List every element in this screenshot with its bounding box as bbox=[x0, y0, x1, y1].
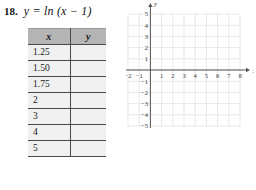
cell-x: 1.25 bbox=[28, 45, 70, 61]
y-tick-label: −4 bbox=[141, 111, 149, 118]
coordinate-graph: −2−112345678 54321−1−2−3−4−5 x y bbox=[126, 2, 254, 142]
x-tick-label: 4 bbox=[194, 72, 198, 79]
table-row: 4 bbox=[28, 125, 106, 141]
y-tick-label: −3 bbox=[141, 100, 148, 107]
table-row: 1.25 bbox=[28, 45, 106, 61]
cell-y[interactable] bbox=[70, 93, 106, 109]
x-tick-label: 3 bbox=[182, 72, 185, 79]
y-axis-label: y bbox=[153, 2, 158, 8]
y-tick-label: −2 bbox=[141, 89, 148, 96]
table-row: 2 bbox=[28, 93, 106, 109]
x-tick-label: 8 bbox=[238, 72, 241, 79]
table-row: 1.50 bbox=[28, 61, 106, 77]
cell-y[interactable] bbox=[70, 109, 106, 125]
cell-y[interactable] bbox=[70, 141, 106, 157]
x-tick-label: 5 bbox=[205, 72, 208, 79]
y-axis-arrow bbox=[148, 3, 152, 7]
problem-equation: y = ln (x − 1) bbox=[24, 4, 92, 19]
cell-y[interactable] bbox=[70, 61, 106, 77]
cell-x: 4 bbox=[28, 125, 70, 141]
value-table: x y 1.25 1.50 1.75 2 3 bbox=[28, 28, 106, 157]
column-header-y: y bbox=[70, 29, 106, 45]
exercise-page: 18. y = ln (x − 1) x y 1.25 1.50 1.75 bbox=[0, 0, 256, 190]
table-row: 3 bbox=[28, 109, 106, 125]
graph-svg: −2−112345678 54321−1−2−3−4−5 x y bbox=[126, 2, 254, 142]
x-tick-label: −2 bbox=[126, 72, 131, 79]
y-tick-label: 1 bbox=[145, 55, 148, 62]
problem-header: 18. y = ln (x − 1) bbox=[4, 4, 92, 19]
y-tick-label: −1 bbox=[141, 78, 148, 85]
table-header-row: x y bbox=[28, 29, 106, 45]
x-axis-label: x bbox=[252, 67, 254, 75]
y-tick-label: 3 bbox=[145, 33, 148, 40]
x-axis-arrow bbox=[246, 68, 250, 72]
column-header-x: x bbox=[28, 29, 70, 45]
problem-number: 18. bbox=[4, 5, 18, 17]
cell-y[interactable] bbox=[70, 77, 106, 93]
y-tick-label: −5 bbox=[141, 122, 148, 129]
table-row: 5 bbox=[28, 141, 106, 157]
x-tick-label: 2 bbox=[171, 72, 174, 79]
cell-x: 1.50 bbox=[28, 61, 70, 77]
cell-x: 3 bbox=[28, 109, 70, 125]
cell-y[interactable] bbox=[70, 45, 106, 61]
cell-x: 5 bbox=[28, 141, 70, 157]
y-tick-label: 5 bbox=[145, 10, 148, 17]
y-tick-label: 2 bbox=[145, 44, 148, 51]
table-header: x y bbox=[28, 29, 106, 45]
cell-y[interactable] bbox=[70, 125, 106, 141]
x-tick-label: 1 bbox=[160, 72, 163, 79]
table-row: 1.75 bbox=[28, 77, 106, 93]
x-tick-label: 7 bbox=[227, 72, 231, 79]
cell-x: 2 bbox=[28, 93, 70, 109]
cell-x: 1.75 bbox=[28, 77, 70, 93]
x-tick-label: 6 bbox=[216, 72, 220, 79]
table-body: 1.25 1.50 1.75 2 3 4 bbox=[28, 45, 106, 157]
